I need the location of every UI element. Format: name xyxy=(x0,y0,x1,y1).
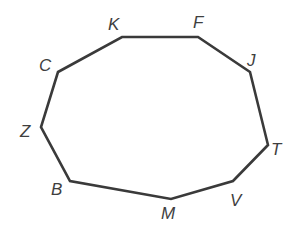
vertex-label-c: C xyxy=(39,56,52,75)
vertex-label-v: V xyxy=(230,191,243,210)
polygon-outline xyxy=(41,37,268,199)
vertex-label-k: K xyxy=(108,15,120,34)
vertex-labels: K F J T V M B Z C xyxy=(19,13,283,223)
vertex-label-f: F xyxy=(193,13,205,32)
polygon-diagram: K F J T V M B Z C xyxy=(0,0,297,228)
vertex-label-j: J xyxy=(246,51,256,70)
vertex-label-t: T xyxy=(271,140,283,159)
vertex-label-z: Z xyxy=(19,122,31,141)
vertex-label-b: B xyxy=(51,180,62,199)
vertex-label-m: M xyxy=(161,204,176,223)
